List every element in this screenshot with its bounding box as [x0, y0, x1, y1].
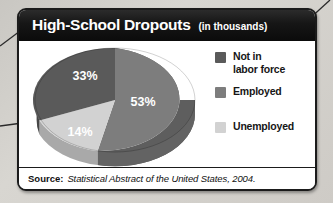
- legend-swatch-unemployed: [215, 122, 226, 133]
- chart-subtitle-units: (in thousands): [198, 21, 267, 32]
- pie-chart: 53% 33% 14%: [27, 44, 207, 169]
- legend-label-not-in-labor-force: Not in labor force: [233, 50, 285, 75]
- source-label: Source:: [28, 173, 63, 184]
- legend-label-line1: Not in: [233, 50, 285, 63]
- legend-label-line1: Unemployed: [233, 120, 294, 133]
- pie-label-not-in-labor-force: 33%: [72, 69, 97, 83]
- legend-label-employed: Employed: [233, 85, 282, 98]
- scanned-page: High-School Dropouts (in thousands): [0, 0, 333, 203]
- legend-label-unemployed: Unemployed: [233, 120, 294, 133]
- chart-card: High-School Dropouts (in thousands): [17, 8, 317, 191]
- chart-source-footer: Source: Statistical Abstract of the Unit…: [19, 167, 315, 189]
- legend-swatch-employed: [215, 87, 226, 98]
- chart-title: High-School Dropouts: [32, 16, 190, 34]
- legend-label-line1: Employed: [233, 85, 282, 98]
- legend-item-unemployed[interactable]: Unemployed: [215, 120, 317, 133]
- chart-legend: Not in labor force Employed Unemployed: [215, 50, 317, 133]
- chart-title-bar: High-School Dropouts (in thousands): [18, 9, 317, 41]
- pie-label-employed: 53%: [130, 95, 155, 109]
- chart-body: 53% 33% 14% Not in labor force: [19, 42, 315, 169]
- legend-item-employed[interactable]: Employed: [215, 85, 317, 98]
- legend-label-line2: labor force: [233, 63, 285, 76]
- legend-item-not-in-labor-force[interactable]: Not in labor force: [215, 50, 317, 75]
- pie-chart-svg: 53% 33% 14%: [27, 44, 207, 169]
- source-text: Statistical Abstract of the United State…: [67, 173, 255, 184]
- legend-swatch-not-in-labor-force: [215, 52, 226, 63]
- pie-label-unemployed: 14%: [67, 125, 92, 139]
